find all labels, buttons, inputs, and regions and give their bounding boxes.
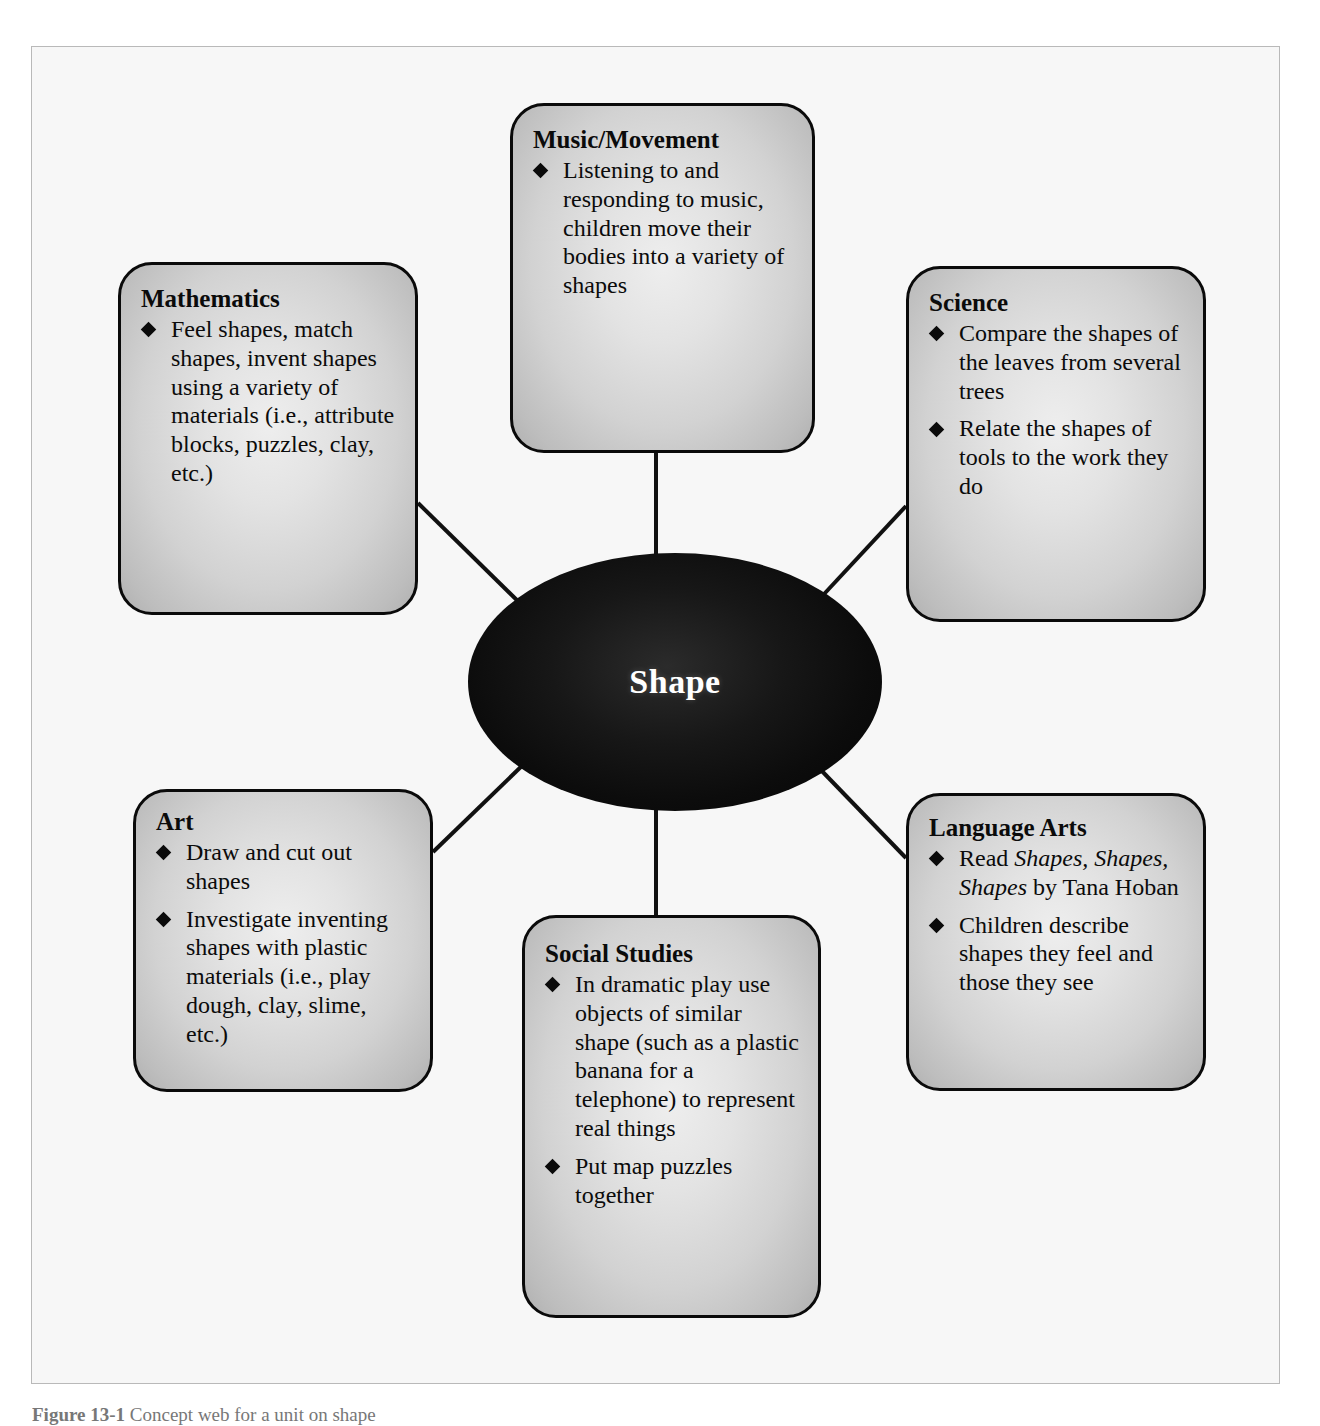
list-item-text: Compare the shapes of the leaves from se… — [959, 320, 1181, 404]
list-item: Put map puzzles together — [545, 1152, 800, 1210]
list-item-text: Draw and cut out shapes — [186, 839, 352, 894]
node-title-music: Music/Movement — [533, 126, 794, 154]
node-science[interactable]: Science Compare the shapes of the leaves… — [906, 266, 1206, 622]
diamond-bullet-icon — [156, 845, 172, 861]
node-list-music: Listening to and responding to music, ch… — [533, 156, 794, 300]
figure-caption: Figure 13-1 Concept web for a unit on sh… — [32, 1404, 1272, 1426]
list-item-text: Investigate inventing shapes with plasti… — [186, 906, 388, 1047]
node-list-art: Draw and cut out shapes Investigate inve… — [156, 838, 412, 1049]
list-item-text: In dramatic play use objects of similar … — [575, 971, 799, 1141]
list-item-text: Children describe shapes they feel and t… — [959, 912, 1153, 996]
node-list-mathematics: Feel shapes, match shapes, invent shapes… — [141, 315, 397, 488]
node-mathematics[interactable]: Mathematics Feel shapes, match shapes, i… — [118, 262, 418, 615]
list-item: Feel shapes, match shapes, invent shapes… — [141, 315, 397, 488]
list-item: Compare the shapes of the leaves from se… — [929, 319, 1185, 405]
list-item-text: Feel shapes, match shapes, invent shapes… — [171, 316, 394, 486]
diamond-bullet-icon — [156, 911, 172, 927]
list-item: Draw and cut out shapes — [156, 838, 412, 896]
diamond-bullet-icon — [141, 322, 157, 338]
diamond-bullet-icon — [929, 326, 945, 342]
node-language-arts[interactable]: Language Arts Read Shapes, Shapes, Shape… — [906, 793, 1206, 1091]
node-title-art: Art — [156, 808, 412, 836]
center-node-shape[interactable]: Shape — [468, 553, 882, 811]
node-title-social-studies: Social Studies — [545, 940, 800, 968]
node-title-science: Science — [929, 289, 1185, 317]
diamond-bullet-icon — [545, 1159, 561, 1175]
center-node-label: Shape — [629, 663, 720, 701]
node-list-language-arts: Read Shapes, Shapes, Shapes by Tana Hoba… — [929, 844, 1185, 997]
figure-caption-number: Figure 13-1 — [32, 1404, 125, 1425]
list-item: In dramatic play use objects of similar … — [545, 970, 800, 1143]
node-music-movement[interactable]: Music/Movement Listening to and respondi… — [510, 103, 815, 453]
node-list-science: Compare the shapes of the leaves from se… — [929, 319, 1185, 501]
node-title-mathematics: Mathematics — [141, 285, 397, 313]
list-item-text: Read Shapes, Shapes, Shapes by Tana Hoba… — [959, 845, 1179, 900]
diamond-bullet-icon — [533, 163, 549, 179]
node-list-social-studies: In dramatic play use objects of similar … — [545, 970, 800, 1209]
list-item-text: Put map puzzles together — [575, 1153, 732, 1208]
diamond-bullet-icon — [929, 851, 945, 867]
node-social-studies[interactable]: Social Studies In dramatic play use obje… — [522, 915, 821, 1318]
figure-caption-text: Concept web for a unit on shape — [125, 1404, 376, 1425]
diamond-bullet-icon — [929, 917, 945, 933]
node-title-language-arts: Language Arts — [929, 814, 1185, 842]
node-art[interactable]: Art Draw and cut out shapes Investigate … — [133, 789, 433, 1092]
list-item: Investigate inventing shapes with plasti… — [156, 905, 412, 1049]
list-item: Read Shapes, Shapes, Shapes by Tana Hoba… — [929, 844, 1185, 902]
diamond-bullet-icon — [545, 977, 561, 993]
list-item: Children describe shapes they feel and t… — [929, 911, 1185, 997]
list-item: Relate the shapes of tools to the work t… — [929, 414, 1185, 500]
diamond-bullet-icon — [929, 421, 945, 437]
list-item-text: Listening to and responding to music, ch… — [563, 157, 784, 298]
list-item: Listening to and responding to music, ch… — [533, 156, 794, 300]
figure-root: Shape Music/Movement Listening to and re… — [0, 0, 1320, 1426]
list-item-text: Relate the shapes of tools to the work t… — [959, 415, 1168, 499]
